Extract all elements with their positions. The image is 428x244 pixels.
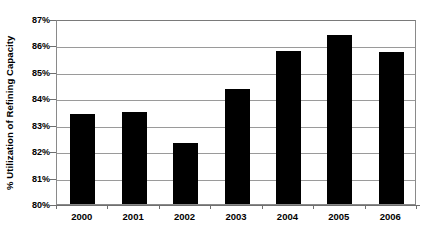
cropped-caption-strip — [6, 236, 246, 244]
y-tick-label: 85% — [0, 68, 50, 77]
gridline — [57, 74, 415, 75]
bar-2006 — [379, 52, 404, 204]
x-tick-mark — [159, 205, 160, 209]
y-tick-label: 83% — [0, 121, 50, 130]
y-tick-label: 82% — [0, 148, 50, 157]
bar-2000 — [70, 114, 95, 204]
x-tick-mark — [313, 205, 314, 209]
bar-2005 — [327, 35, 352, 204]
bar-2001 — [122, 112, 147, 205]
y-axis-title-label: % Utilization of Refining Capacity — [5, 35, 15, 189]
y-tick-label: 87% — [0, 16, 50, 25]
bar-chart-figure: % Utilization of Refining Capacity 80%81… — [0, 0, 428, 244]
x-tick-mark — [56, 205, 57, 209]
bar-2004 — [276, 51, 301, 204]
x-tick-mark — [107, 205, 108, 209]
x-tick-mark — [416, 205, 417, 209]
y-tick-label: 86% — [0, 42, 50, 51]
y-tick-label: 84% — [0, 95, 50, 104]
x-tick-mark — [365, 205, 366, 209]
bar-2002 — [173, 143, 198, 204]
x-tick-label-2006: 2006 — [360, 212, 420, 222]
bar-2003 — [225, 89, 250, 204]
y-tick-label: 80% — [0, 201, 50, 210]
y-axis-title: % Utilization of Refining Capacity — [0, 0, 20, 225]
x-tick-mark — [262, 205, 263, 209]
x-tick-mark — [210, 205, 211, 209]
y-tick-label: 81% — [0, 174, 50, 183]
gridline — [57, 47, 415, 48]
plot-area — [56, 20, 416, 205]
